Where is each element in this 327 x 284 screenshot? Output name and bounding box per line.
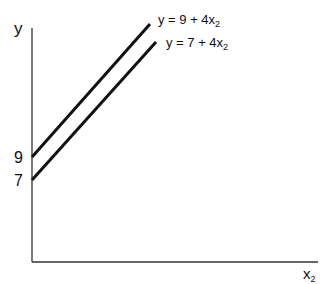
line-intercept-9 <box>32 24 150 157</box>
diagram-lines <box>0 0 327 284</box>
intercept-7-label: 7 <box>14 173 23 189</box>
diagram-canvas: y x2 9 7 y = 9 + 4x2 y = 7 + 4x2 <box>0 0 327 284</box>
x-axis-label: x2 <box>303 266 316 284</box>
equation-label-2: y = 7 + 4x2 <box>166 36 228 52</box>
intercept-9-label: 9 <box>14 150 23 166</box>
y-axis-label: y <box>14 20 23 37</box>
equation-label-1: y = 9 + 4x2 <box>158 13 220 29</box>
line-intercept-7 <box>32 42 156 180</box>
